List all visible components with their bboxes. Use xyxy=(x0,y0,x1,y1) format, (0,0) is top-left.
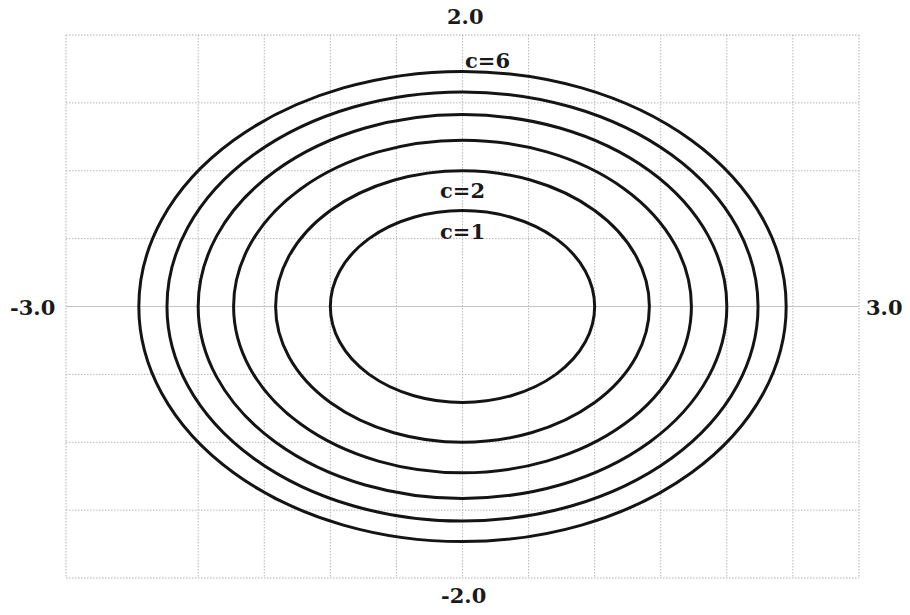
grid-lines xyxy=(66,35,859,578)
y-max-tick-label: 2.0 xyxy=(447,6,484,27)
contour-label-c6: c=6 xyxy=(465,50,510,71)
x-max-tick-label: 3.0 xyxy=(866,297,903,318)
contour-plot xyxy=(0,0,910,615)
contour-label-c2: c=2 xyxy=(440,180,485,201)
y-min-tick-label: -2.0 xyxy=(441,585,486,606)
contour-label-c1: c=1 xyxy=(440,221,485,242)
x-min-tick-label: -3.0 xyxy=(10,297,55,318)
